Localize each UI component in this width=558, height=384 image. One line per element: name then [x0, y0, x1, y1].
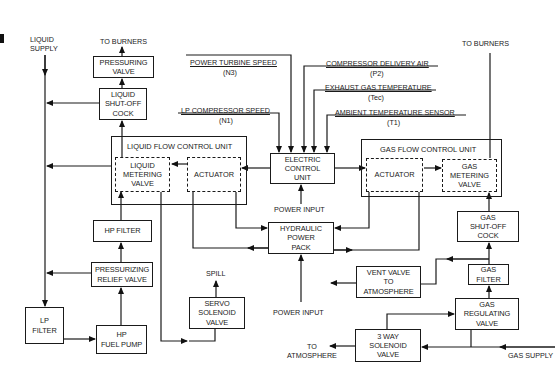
spill-label: SPILL	[206, 269, 226, 278]
three-way-solenoid-valve: 3 WAYSOLENOIDVALVE	[355, 329, 421, 362]
to-atmosphere-label: TOATMOSPHERE	[286, 342, 338, 360]
gas-regulating-valve: GASREGULATINGVALVE	[455, 298, 519, 330]
gas-to-burners-label: TO BURNERS	[462, 39, 509, 48]
liquid-shutoff-cock: LIQUIDSHUT-OFFCOCK	[99, 88, 147, 120]
servo-solenoid-valve: SERVOSOLENOIDVALVE	[189, 297, 245, 329]
pressuring-valve: PRESSURINGVALVE	[93, 56, 154, 78]
liquid-supply-label: LIQUIDSUPPLY	[30, 35, 58, 53]
signal-lp-compressor-speed: LP COMPRESSOR SPEED	[181, 106, 270, 115]
lp-filter: LPFILTER	[25, 307, 64, 344]
gas-flow-control-unit-title: GAS FLOW CONTROL UNIT	[380, 145, 476, 154]
liquid-to-burners-label: TO BURNERS	[100, 37, 147, 46]
hp-filter: HP FILTER	[93, 220, 152, 242]
vent-valve: VENT VALVETOATMOSPHERE	[356, 266, 421, 298]
electric-control-unit: ELECTRICCONTROLUNIT	[270, 153, 335, 184]
gas-actuator: ACTUATOR	[366, 158, 423, 192]
gas-shutoff-cock: GASSHUT-OFFCOCK	[457, 211, 519, 242]
signal-power-turbine-speed: POWER TURBINE SPEED	[190, 58, 277, 67]
pressurizing-relief-valve: PRESSURIZINGRELIEF VALVE	[91, 262, 153, 287]
gas-filter: GASFILTER	[468, 264, 509, 285]
gas-metering-valve: GASMETERINGVALVE	[442, 159, 497, 192]
liquid-flow-control-unit-title: LIQUID FLOW CONTROL UNIT	[127, 142, 232, 151]
signal-t1: (T1)	[387, 118, 400, 127]
signal-ambient-temperature-sensor: AMBIENT TEMPERATURE SENSOR	[335, 108, 455, 117]
power-input-ecu-label: POWER INPUT	[274, 205, 325, 214]
liquid-metering-valve: LIQUIDMETERINGVALVE	[115, 157, 170, 192]
hp-fuel-pump: HPFUEL PUMP	[96, 325, 147, 354]
signal-n3: (N3)	[223, 68, 237, 77]
power-input-hpp-label: POWER INPUT	[273, 308, 324, 317]
liquid-actuator: ACTUATOR	[187, 157, 241, 192]
signal-compressor-delivery-air: COMPRESSOR DELIVERY AIR	[326, 59, 429, 68]
hydraulic-power-pack: HYDRAULICPOWERPACK	[268, 222, 334, 254]
gas-supply-label: GAS SUPPLY	[508, 351, 553, 360]
signal-exhaust-gas-temperature: EXHAUST GAS TEMPERATURE	[325, 83, 432, 92]
signal-p2: (P2)	[370, 69, 384, 78]
signal-n1: (N1)	[219, 116, 233, 125]
signal-tec: (Tec)	[368, 93, 384, 102]
